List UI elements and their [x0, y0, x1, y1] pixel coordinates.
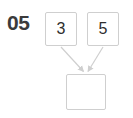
operand-left-value: 3 — [57, 21, 66, 37]
arrow-right-to-result — [88, 47, 103, 72]
operand-right-box: 5 — [87, 12, 119, 46]
operand-right-value: 5 — [99, 21, 108, 37]
result-answer-box[interactable] — [66, 74, 106, 110]
diagram-canvas: 05 3 5 — [0, 0, 133, 118]
arrow-left-to-result — [61, 47, 84, 72]
operand-left-box: 3 — [45, 12, 77, 46]
question-number-label: 05 — [7, 11, 29, 35]
